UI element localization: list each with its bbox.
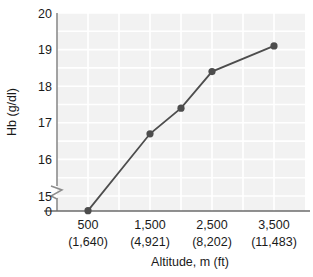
data-point-marker [208,68,215,75]
x-tick-label-meters: 2,500 [196,218,227,232]
y-tick-label: 17 [38,116,52,130]
x-tick-label-meters: 1,500 [134,218,165,232]
y-tick-label: 18 [38,80,52,94]
data-point-marker [177,105,184,112]
y-tick-label: 19 [38,43,52,57]
y-tick-label: 16 [38,153,52,167]
x-tick-label-meters: 3,500 [258,218,289,232]
y-tick-label: 0 [45,205,52,219]
data-point-marker [84,207,91,214]
y-tick-label: 20 [38,7,52,21]
y-axis-tick-labels: 2019181716150 [38,7,52,219]
x-axis-title: Altitude, m (ft) [151,255,229,269]
x-tick-label-feet: (8,202) [192,235,232,249]
chart-figure: 2019181716150 500(1,640)1,500(4,921)2,50… [0,0,313,277]
data-point-marker [270,42,277,49]
line-chart-svg: 2019181716150 500(1,640)1,500(4,921)2,50… [0,0,313,277]
x-tick-label-meters: 500 [78,218,99,232]
x-tick-label-feet: (1,640) [68,235,108,249]
y-axis-title: Hb (g/dl) [5,88,19,136]
x-tick-label-feet: (11,483) [251,235,297,249]
y-tick-label: 15 [38,190,52,204]
data-point-marker [146,130,153,137]
x-tick-label-feet: (4,921) [130,235,170,249]
x-axis-tick-labels: 500(1,640)1,500(4,921)2,500(8,202)3,500(… [68,218,297,249]
